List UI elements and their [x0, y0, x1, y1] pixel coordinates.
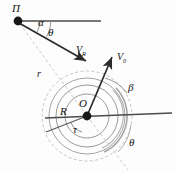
vector-v0: [87, 57, 112, 116]
label-angle-theta-bottom: θ: [129, 137, 134, 148]
arc-beta: [105, 78, 127, 93]
point-o-marker: [83, 112, 92, 121]
label-angle-beta: β: [128, 82, 133, 93]
diagram-canvas: [0, 0, 175, 174]
label-radius-r: r: [37, 69, 41, 79]
label-vector-vr-subscript: R: [82, 50, 86, 57]
label-angle-alpha: α: [38, 17, 44, 28]
label-angle-tau: τ: [73, 124, 77, 135]
segment-r-dashed: [20, 24, 87, 116]
label-radius-capital-r: R: [60, 106, 67, 117]
label-vector-vr: VR: [76, 45, 86, 57]
label-angle-theta-top: θ: [48, 27, 53, 38]
label-vector-v0-subscript: 0: [123, 57, 126, 64]
label-center-o: O: [79, 98, 87, 109]
label-vector-v0: V0: [117, 52, 126, 64]
label-point-p: П: [12, 3, 20, 14]
point-p-marker: [14, 17, 23, 26]
physics-diagram: П α θ VR r V0 β O R τ θ: [0, 0, 175, 174]
